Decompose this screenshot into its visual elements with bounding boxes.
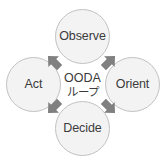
node-orient-label: Orient (116, 78, 149, 91)
node-act-label: Act (25, 78, 43, 91)
center-label-line2: ループ (67, 87, 99, 99)
ooda-loop-diagram: Observe Orient Decide Act OODA ループ (0, 0, 165, 163)
node-observe-label: Observe (59, 30, 106, 43)
center-label-line1: OODA (64, 72, 101, 85)
node-decide-label: Decide (63, 122, 101, 135)
